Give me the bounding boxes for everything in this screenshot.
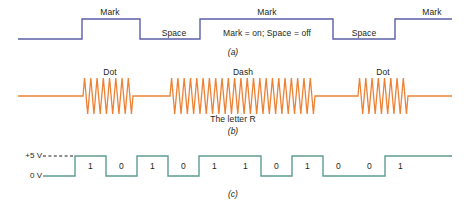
- space-label-1: Space: [162, 29, 187, 38]
- caption-a: (a): [228, 48, 238, 57]
- caption-b: (b): [228, 127, 238, 136]
- space-label-2: Space: [352, 29, 377, 38]
- bit-label: 0: [119, 162, 124, 171]
- bit-label: 1: [398, 162, 403, 171]
- bit-label: 1: [88, 162, 93, 171]
- dash-label: Dash: [233, 68, 253, 77]
- panel-morse-code: Dot Dash Dot The letter R (b): [0, 60, 466, 138]
- bit-label: 0: [367, 162, 372, 171]
- bit-label: 1: [212, 162, 217, 171]
- bit-label: 1: [150, 162, 155, 171]
- letter-r-note: The letter R: [210, 115, 256, 124]
- mark-label-2: Mark: [257, 8, 276, 17]
- voltage-low-label: 0 V: [14, 172, 42, 180]
- signal-waveform-figure: Mark Space Mark Space Mark Mark = on; Sp…: [0, 0, 466, 206]
- dot-label-2: Dot: [376, 68, 390, 77]
- voltage-high-label: +5 V: [14, 152, 42, 160]
- caption-c: (c): [228, 190, 238, 199]
- panel-digital-bits: +5 V 0 V 10101101001 (c): [0, 138, 466, 206]
- panel-mark-space: Mark Space Mark Space Mark Mark = on; Sp…: [0, 0, 466, 60]
- bit-label: 0: [336, 162, 341, 171]
- bit-label: 1: [305, 162, 310, 171]
- mark-space-note: Mark = on; Space = off: [223, 29, 311, 38]
- bit-label: 0: [274, 162, 279, 171]
- dot-label-1: Dot: [103, 68, 117, 77]
- mark-label-3: Mark: [422, 8, 441, 17]
- bit-label: 1: [243, 162, 248, 171]
- mark-label-1: Mark: [100, 8, 119, 17]
- bit-label: 0: [181, 162, 186, 171]
